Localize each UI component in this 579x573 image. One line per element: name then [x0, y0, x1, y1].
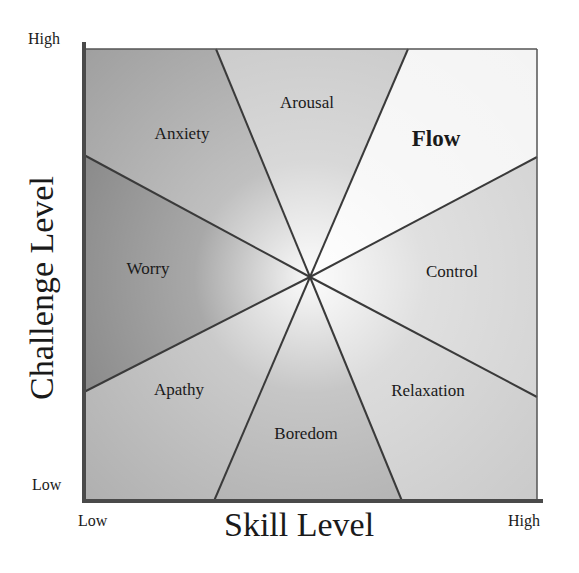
label-arousal: Arousal: [280, 93, 334, 113]
label-worry: Worry: [126, 259, 169, 279]
x-axis-low-label: Low: [78, 512, 107, 530]
label-apathy: Apathy: [154, 380, 204, 400]
label-flow: Flow: [412, 126, 461, 152]
y-axis-title: Challenge Level: [23, 176, 61, 400]
flow-diagram-graphic: [0, 0, 579, 573]
y-axis-low-label: Low: [32, 476, 61, 494]
x-axis-title: Skill Level: [224, 506, 374, 544]
label-control: Control: [426, 262, 478, 282]
y-axis-high-label: High: [28, 30, 60, 48]
x-axis-high-label: High: [508, 512, 540, 530]
label-boredom: Boredom: [274, 424, 337, 444]
label-relaxation: Relaxation: [391, 381, 465, 401]
label-anxiety: Anxiety: [155, 124, 210, 144]
